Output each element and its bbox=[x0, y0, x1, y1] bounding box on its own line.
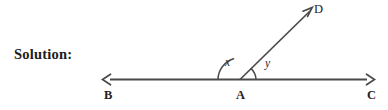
point-label-b: B bbox=[104, 89, 112, 102]
arrowhead-b-icon bbox=[103, 74, 111, 85]
point-label-a: A bbox=[236, 89, 245, 102]
point-label-c: C bbox=[367, 89, 376, 102]
arrowhead-c-icon bbox=[367, 74, 375, 85]
point-label-d: D bbox=[314, 3, 323, 16]
angle-label-x: x bbox=[225, 57, 230, 69]
page-canvas: Solution: B A C D x y bbox=[0, 0, 388, 110]
angle-arc-y bbox=[251, 69, 256, 80]
ray-ad bbox=[240, 11, 310, 80]
diagram-svg bbox=[0, 0, 388, 110]
arrowhead-d-icon bbox=[303, 7, 312, 16]
angle-diagram: B A C D x y bbox=[0, 0, 388, 110]
angle-label-y: y bbox=[265, 58, 270, 70]
